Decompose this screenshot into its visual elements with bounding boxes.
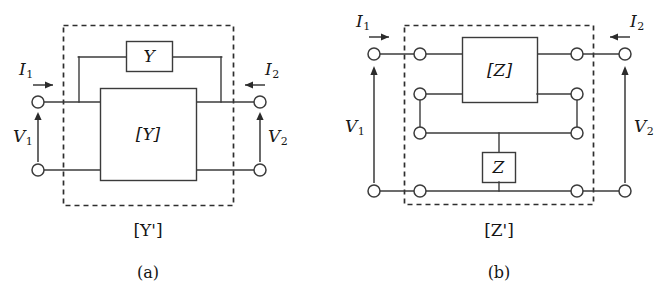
panel-a-label-i2-symbol: I [265,59,272,79]
panel-b-node-inner-right-top [571,48,583,60]
panel-a-label-i2-subscript: 2 [272,68,279,81]
panel-a-admittance-element-label: Y [126,48,172,65]
panel-b-voltage-arrow-v1 [370,66,377,183]
panel-b-label-v2-symbol: V [634,116,646,136]
panel-b-label-v2-subscript: 2 [647,125,654,138]
panel-b-terminal-right-top [619,48,631,60]
panel-b-caption: (b) [459,265,539,281]
panel-a-terminal-right-top [254,96,266,108]
panel-b-terminal-right-bottom [619,185,631,197]
panel-b-current-arrow-i1 [369,34,389,41]
panel-a-caption: (a) [108,265,188,281]
panel-b-terminal-left-top [368,48,380,60]
panel-b-network-block-label: [Z] [462,62,537,79]
panel-b-node-inner-left-top [414,48,426,60]
panel-a-label-v1-symbol: V [13,126,25,146]
panel-a-label-v2: V2 [268,128,288,147]
panel-a-label-v2-symbol: V [268,126,280,146]
panel-b-current-arrow-i2 [610,34,630,41]
panel-a-network-block-label: [Y] [100,126,196,143]
panel-b-label-i2-symbol: I [630,11,637,31]
panel-b-label-i1-symbol: I [356,11,363,31]
panel-b-node-lower-right [571,127,583,139]
panel-b-terminal-left-bottom [368,185,380,197]
panel-a-label-i1-symbol: I [19,59,26,79]
panel-a-label-i1: I1 [19,61,33,80]
panel-a-label-v2-subscript: 2 [281,135,288,148]
panel-b-label-v1-symbol: V [345,116,357,136]
panel-b-label-i1-subscript: 1 [363,20,370,33]
circuit-diagram-svg [0,0,669,297]
panel-b-label-v1: V1 [345,118,365,137]
panel-b-enclosure-label: [Z'] [459,222,539,239]
panel-b-node-bottom-right [571,185,583,197]
panel-b-voltage-arrow-v2 [621,66,628,183]
panel-b-node-lower-left [414,127,426,139]
panel-b-graphics [368,26,631,205]
panel-a-enclosure-label: [Y'] [108,222,188,239]
panel-b-series-element-label: Z [482,159,515,176]
panel-a-label-v1-subscript: 1 [26,135,33,148]
panel-b-node-bottom-left [414,185,426,197]
panel-a-label-i1-subscript: 1 [26,68,33,81]
panel-b-node-middle-left [414,88,426,100]
panel-b-label-i2-subscript: 2 [637,20,644,33]
panel-b-label-v1-subscript: 1 [358,125,365,138]
panel-a-label-v1: V1 [13,128,33,147]
panel-b-label-i1: I1 [356,13,370,32]
panel-b-label-v2: V2 [634,118,654,137]
panel-b-node-middle-right [571,88,583,100]
panel-a-terminal-left-top [32,96,44,108]
panel-a-current-arrow-i2 [245,82,265,89]
panel-a-terminal-left-bottom [32,164,44,176]
panel-a-current-arrow-i1 [33,82,53,89]
panel-b-label-i2: I2 [630,13,644,32]
figure-canvas: I1 I2 V1 V2 Y [Y] [Y'] (a) I1 I2 V1 V2 [… [0,0,669,297]
panel-a-label-i2: I2 [265,61,279,80]
panel-a-terminal-right-bottom [254,164,266,176]
panel-a-voltage-arrow-v2 [256,112,263,162]
panel-a-voltage-arrow-v1 [34,112,41,162]
